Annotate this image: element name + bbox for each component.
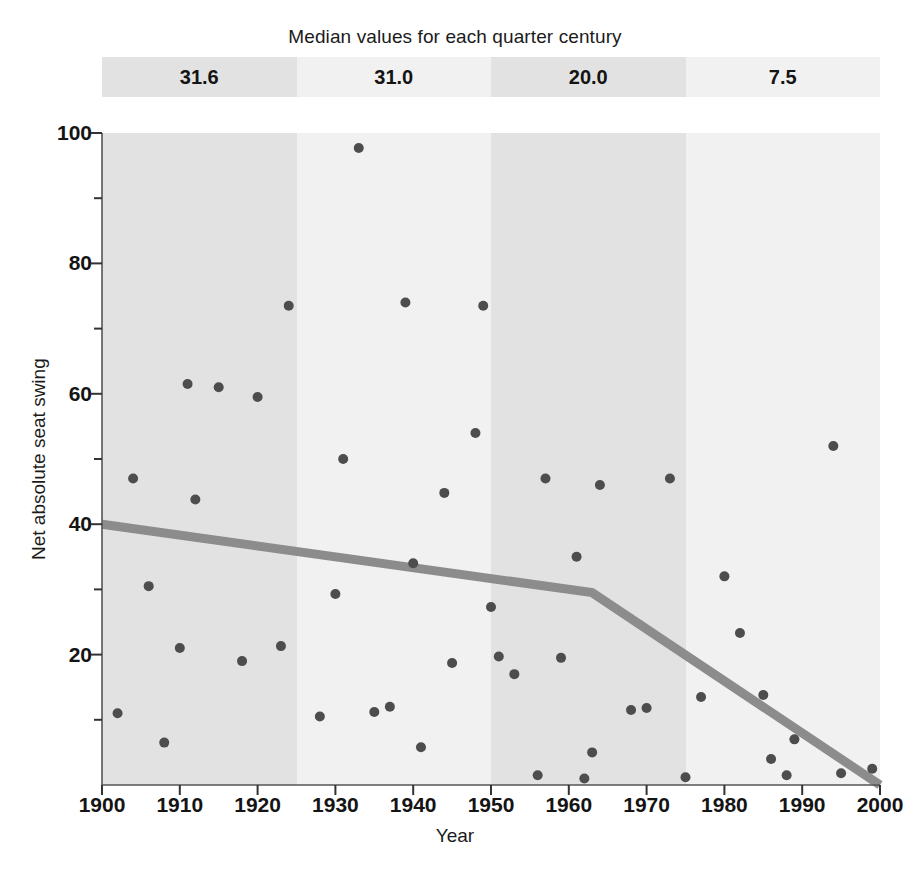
data-point [183,379,193,389]
x-tick-label: 1980 [701,793,748,817]
data-point [572,552,582,562]
data-point [439,488,449,498]
data-point [284,301,294,311]
data-point [486,602,496,612]
x-tick-label: 1910 [156,793,203,817]
data-point [665,474,675,484]
x-tick-label: 1970 [623,793,670,817]
data-point [385,702,395,712]
data-point [315,712,325,722]
chart-figure: Median values for each quarter century 3… [0,0,910,873]
data-point [276,641,286,651]
data-point [556,653,566,663]
data-point [533,770,543,780]
data-point [579,773,589,783]
data-point [416,742,426,752]
data-point [681,772,691,782]
x-tick-label: 1950 [468,793,515,817]
data-point [214,382,224,392]
data-point [408,558,418,568]
data-point [190,494,200,504]
data-point [128,474,138,484]
data-point [587,747,597,757]
data-point [470,428,480,438]
data-point [735,628,745,638]
data-point [338,454,348,464]
data-point [369,707,379,717]
x-tick-label: 1990 [779,793,826,817]
data-point [354,143,364,153]
data-point [144,581,154,591]
data-point [626,705,636,715]
data-point [867,764,877,774]
x-tick-label: 1940 [390,793,437,817]
data-point [509,669,519,679]
data-point [766,754,776,764]
x-tick-label: 2000 [857,793,904,817]
chart-overlay [0,0,910,873]
data-point [253,392,263,402]
data-point [595,480,605,490]
data-point [758,690,768,700]
data-point [237,656,247,666]
x-tick-label: 1930 [312,793,359,817]
x-tick-label: 1960 [545,793,592,817]
data-point [400,298,410,308]
data-point [494,652,504,662]
x-tick-label: 1900 [79,793,126,817]
data-point [789,734,799,744]
data-point [782,770,792,780]
data-point [159,738,169,748]
data-point [828,441,838,451]
data-point [175,643,185,653]
data-point [696,692,706,702]
trend-line [102,524,880,785]
data-point [478,301,488,311]
data-point [330,589,340,599]
x-tick-label: 1920 [234,793,281,817]
data-point [113,708,123,718]
data-point [836,768,846,778]
data-point [447,658,457,668]
data-point [540,474,550,484]
data-point [642,703,652,713]
data-point [719,571,729,581]
